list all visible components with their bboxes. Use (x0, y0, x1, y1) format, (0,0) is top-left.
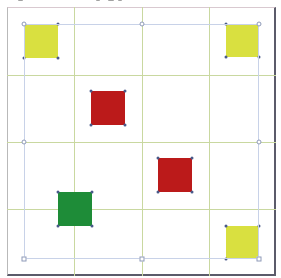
resize-handle-top-left[interactable] (22, 22, 27, 27)
resize-handle-bottom-right[interactable] (257, 257, 262, 262)
cropped-caption-text (0, 0, 281, 2)
selection-box[interactable] (24, 24, 259, 259)
resize-handle-middle-left[interactable] (22, 140, 27, 145)
resize-handle-bottom-left[interactable] (22, 257, 27, 262)
resize-handle-bottom-center[interactable] (140, 257, 145, 262)
resize-handle-top-center[interactable] (140, 22, 145, 27)
resize-handle-top-right[interactable] (257, 22, 262, 27)
resize-handle-middle-right[interactable] (257, 140, 262, 145)
